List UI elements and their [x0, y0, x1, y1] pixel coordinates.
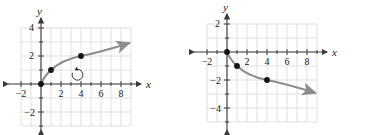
x-tick-label: 4	[265, 56, 270, 67]
data-point	[234, 63, 240, 69]
y-axis-label-left: y	[36, 5, 42, 17]
y-tick-label: 2	[215, 18, 220, 29]
x-tick-label: 6	[285, 56, 290, 67]
x-tick-label: 8	[305, 56, 310, 67]
x-tick-label: 6	[99, 88, 104, 99]
data-point	[38, 81, 44, 87]
data-point	[48, 67, 54, 73]
x-tick-label: −2	[16, 88, 27, 99]
y-tick-label: 2	[29, 50, 34, 61]
data-point	[78, 53, 84, 59]
y-tick-label: 4	[29, 22, 34, 33]
curve-sqrt-x	[41, 43, 129, 84]
graph-right: y x −2 2 4 6 8 2 −2 −4	[185, 0, 373, 135]
data-point	[264, 77, 270, 83]
grid-right	[207, 24, 317, 122]
graph-left: y x −2 2 4 6 8 4 2 −2	[0, 0, 190, 135]
x-axis-label-right: x	[331, 46, 337, 58]
x-tick-label: 2	[59, 88, 64, 99]
y-tick-label: −4	[210, 103, 221, 114]
data-point	[224, 49, 230, 55]
x-axis-label-left: x	[145, 78, 151, 90]
x-tick-label: 4	[79, 88, 84, 99]
curve-negative-sqrt-x	[227, 52, 315, 93]
x-tick-label: 8	[119, 88, 124, 99]
x-tick-label: −2	[202, 56, 213, 67]
y-axis-label-right: y	[222, 1, 228, 13]
grid-left	[21, 28, 131, 126]
x-tick-label: 2	[245, 56, 250, 67]
y-tick-label: −2	[210, 75, 221, 86]
figure-two-square-root-graphs: y x −2 2 4 6 8 4 2 −2	[0, 0, 373, 135]
y-tick-label: −2	[24, 107, 35, 118]
